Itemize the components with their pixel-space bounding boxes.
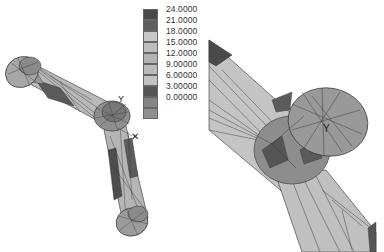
legend-row: 0.00000: [143, 97, 203, 108]
legend-label: 24.0000: [166, 4, 197, 15]
zoomed-joint-view: Y: [192, 0, 384, 252]
legend-swatch: [143, 9, 158, 20]
legend-label: 21.0000: [166, 15, 197, 26]
legend-label: 6.00000: [166, 70, 197, 81]
legend-swatch: [143, 108, 158, 119]
load-marker: ✕: [131, 131, 139, 142]
legend-label: 18.0000: [166, 26, 197, 37]
legend-row: [143, 108, 203, 119]
model-mesh-right: Y: [192, 0, 384, 252]
legend-label: 9.00000: [166, 59, 197, 70]
legend-label: 0.00000: [166, 92, 197, 103]
legend-swatch: [143, 20, 158, 31]
legend-label: 15.0000: [166, 37, 197, 48]
legend-swatch: [143, 31, 158, 42]
legend-swatch: [143, 86, 158, 97]
axis-marker: Y: [118, 94, 124, 104]
axis-marker-zoomed: Y: [323, 123, 330, 134]
legend-swatch: [143, 42, 158, 53]
legend-label: 12.0000: [166, 48, 197, 59]
legend-swatch: [143, 75, 158, 86]
legend-swatch: [143, 97, 158, 108]
color-legend: 24.0000 21.0000 18.0000 15.0000 12.0000 …: [143, 9, 203, 119]
legend-label: 3.00000: [166, 81, 197, 92]
legend-swatch: [143, 64, 158, 75]
legend-swatch: [143, 53, 158, 64]
